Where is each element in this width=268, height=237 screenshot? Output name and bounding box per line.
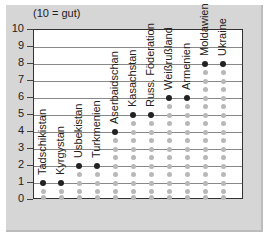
- value-dot: [76, 163, 82, 169]
- value-dot: [58, 180, 64, 186]
- y-tick-label: 4: [4, 124, 24, 136]
- scale-dot: [221, 121, 226, 126]
- scale-dot: [131, 189, 136, 194]
- scale-dot: [131, 121, 136, 126]
- scale-dot: [167, 147, 172, 152]
- scale-dot: [203, 79, 208, 84]
- scale-dot: [167, 104, 172, 109]
- grid-line: [34, 81, 242, 82]
- y-tick-label: 6: [4, 90, 24, 102]
- scale-dot: [149, 155, 154, 160]
- value-dot: [184, 95, 190, 101]
- scale-dot: [77, 181, 82, 186]
- scale-dot: [41, 195, 46, 200]
- value-dot: [40, 180, 46, 186]
- scale-dot: [185, 121, 190, 126]
- grid-line: [34, 98, 242, 99]
- scale-dot: [221, 79, 226, 84]
- scale-dot: [185, 147, 190, 152]
- scale-dot: [203, 104, 208, 109]
- value-dot: [130, 112, 136, 118]
- scale-dot: [203, 155, 208, 160]
- scale-dot: [95, 172, 100, 177]
- value-dot: [220, 61, 226, 67]
- scale-dot: [221, 172, 226, 177]
- scale-dot: [131, 172, 136, 177]
- category-label: Weißrußland: [162, 27, 174, 90]
- scale-dot: [203, 138, 208, 143]
- scale-dot: [221, 87, 226, 92]
- y-tick-label: 9: [4, 39, 24, 51]
- y-tick-label: 8: [4, 56, 24, 68]
- scale-dot: [203, 130, 208, 135]
- scale-dot: [203, 189, 208, 194]
- scale-dot: [113, 172, 118, 177]
- scale-dot: [95, 195, 100, 200]
- scale-dot: [113, 138, 118, 143]
- y-tick-label: 7: [4, 73, 24, 85]
- scale-dot: [221, 130, 226, 135]
- scale-dot: [149, 181, 154, 186]
- scale-dot: [77, 195, 82, 200]
- scale-dot: [185, 195, 190, 200]
- y-tick-mark: [27, 80, 33, 81]
- scale-dot: [149, 121, 154, 126]
- scale-dot: [113, 181, 118, 186]
- scale-dot: [167, 172, 172, 177]
- scale-dot: [221, 138, 226, 143]
- scale-dot: [203, 113, 208, 118]
- y-tick-mark: [27, 46, 33, 47]
- scale-dot: [59, 189, 64, 194]
- scale-dot: [221, 189, 226, 194]
- scale-dot: [185, 155, 190, 160]
- scale-dot: [167, 195, 172, 200]
- scale-dot: [203, 147, 208, 152]
- y-tick-label: 2: [4, 158, 24, 170]
- scale-dot: [77, 172, 82, 177]
- scale-dot: [221, 195, 226, 200]
- grid-line: [34, 47, 242, 48]
- y-tick-label: 3: [4, 141, 24, 153]
- scale-dot: [203, 87, 208, 92]
- y-tick-mark: [27, 114, 33, 115]
- grid-line: [34, 183, 242, 184]
- y-tick-mark: [27, 165, 33, 166]
- scale-dot: [167, 121, 172, 126]
- scale-dot: [149, 147, 154, 152]
- category-label: Moldawien: [198, 3, 210, 56]
- plot-area: TadschikistanKyrgystanUsbekistanTurkmeni…: [33, 29, 243, 199]
- y-tick-label: 5: [4, 107, 24, 119]
- scale-dot: [131, 181, 136, 186]
- scale-dot: [131, 138, 136, 143]
- scale-dot: [203, 181, 208, 186]
- category-label: Russ. Föderation: [144, 23, 156, 107]
- scale-dot: [221, 147, 226, 152]
- scale-dot: [113, 189, 118, 194]
- category-label: Turkmenien: [90, 100, 102, 158]
- chart-subtitle: (10 = gut): [33, 7, 80, 19]
- scale-dot: [113, 195, 118, 200]
- scale-dot: [221, 181, 226, 186]
- value-dot: [166, 95, 172, 101]
- scale-dot: [95, 181, 100, 186]
- category-label: Armenien: [180, 43, 192, 90]
- scale-dot: [77, 189, 82, 194]
- scale-dot: [131, 147, 136, 152]
- scale-dot: [149, 195, 154, 200]
- scale-dot: [149, 164, 154, 169]
- scale-dot: [167, 164, 172, 169]
- y-tick-mark: [27, 131, 33, 132]
- scale-dot: [149, 172, 154, 177]
- y-tick-mark: [27, 97, 33, 98]
- scale-dot: [149, 138, 154, 143]
- y-tick-label: 1: [4, 175, 24, 187]
- grid-line: [34, 64, 242, 65]
- scale-dot: [221, 96, 226, 101]
- scale-dot: [185, 130, 190, 135]
- value-dot: [202, 61, 208, 67]
- category-label: Kyrgystan: [54, 126, 66, 175]
- scale-dot: [185, 138, 190, 143]
- scale-dot: [203, 164, 208, 169]
- scale-dot: [185, 189, 190, 194]
- scale-dot: [221, 164, 226, 169]
